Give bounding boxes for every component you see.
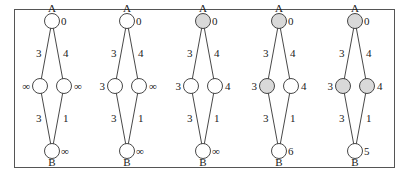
node-name-A: A — [275, 2, 283, 14]
node-name-A: A — [351, 2, 359, 14]
edge-weight-A-R: 4 — [366, 47, 372, 59]
graph-panel-step-2: 3431AB03∞∞ — [100, 2, 158, 168]
distance-label-L: ∞ — [22, 80, 30, 92]
edge-weight-R-B: 1 — [138, 112, 144, 124]
edge-A-L — [40, 21, 52, 86]
distance-label-A: 0 — [212, 15, 218, 27]
distance-label-L: 3 — [176, 80, 182, 92]
node-name-B: B — [123, 156, 130, 168]
edge-A-L — [343, 21, 355, 86]
edge-weight-L-B: 3 — [263, 112, 269, 124]
edge-L-B — [115, 86, 127, 151]
distance-label-L: 3 — [100, 80, 106, 92]
node-name-A: A — [199, 2, 207, 14]
distance-label-R: ∞ — [149, 80, 157, 92]
node-R — [57, 79, 72, 94]
edge-weight-A-R: 4 — [214, 47, 220, 59]
node-R — [360, 79, 375, 94]
edge-L-B — [40, 86, 52, 151]
node-L — [260, 79, 275, 94]
edge-A-L — [191, 21, 203, 86]
distance-label-B: ∞ — [61, 145, 69, 157]
node-R — [208, 79, 223, 94]
node-A — [120, 14, 135, 29]
node-A — [272, 14, 287, 29]
edge-weight-A-L: 3 — [36, 47, 42, 59]
edge-A-L — [115, 21, 127, 86]
distance-label-B: 6 — [288, 145, 294, 157]
edge-weight-L-B: 3 — [339, 112, 345, 124]
distance-label-B: ∞ — [136, 145, 144, 157]
edge-L-B — [267, 86, 279, 151]
node-L — [184, 79, 199, 94]
distance-label-B: 5 — [364, 145, 370, 157]
edge-weight-R-B: 1 — [214, 112, 220, 124]
graph-panel-step-4: 3431AB0346 — [252, 2, 308, 168]
edge-weight-A-L: 3 — [111, 47, 117, 59]
edge-L-B — [343, 86, 355, 151]
dijkstra-diagram: 3431AB0∞∞∞3431AB03∞∞3431AB034∞3431AB0346… — [0, 0, 406, 176]
edge-weight-L-B: 3 — [187, 112, 193, 124]
distance-label-A: 0 — [288, 15, 294, 27]
edge-weight-A-R: 4 — [63, 47, 69, 59]
node-R — [132, 79, 147, 94]
edge-weight-A-L: 3 — [187, 47, 193, 59]
edge-weight-R-B: 1 — [290, 112, 296, 124]
edge-weight-A-R: 4 — [290, 47, 296, 59]
graph-panel-step-5: 3431AB0345 — [328, 2, 384, 168]
node-name-B: B — [351, 156, 358, 168]
node-name-B: B — [275, 156, 282, 168]
node-R — [284, 79, 299, 94]
edge-weight-R-B: 1 — [63, 112, 69, 124]
edge-weight-R-B: 1 — [366, 112, 372, 124]
distance-label-L: 3 — [252, 80, 258, 92]
distance-label-A: 0 — [136, 15, 142, 27]
edge-weight-A-L: 3 — [339, 47, 345, 59]
distance-label-R: ∞ — [74, 80, 82, 92]
distance-label-L: 3 — [328, 80, 334, 92]
node-L — [108, 79, 123, 94]
graph-panel-step-1: 3431AB0∞∞∞ — [22, 2, 82, 168]
edge-weight-A-R: 4 — [138, 47, 144, 59]
distance-label-A: 0 — [61, 15, 67, 27]
node-name-B: B — [48, 156, 55, 168]
node-L — [336, 79, 351, 94]
node-name-A: A — [123, 2, 131, 14]
node-L — [33, 79, 48, 94]
node-name-A: A — [48, 2, 56, 14]
graph-panel-step-3: 3431AB034∞ — [176, 2, 232, 168]
edge-weight-L-B: 3 — [111, 112, 117, 124]
distance-label-A: 0 — [364, 15, 370, 27]
distance-label-R: 4 — [377, 80, 383, 92]
node-A — [45, 14, 60, 29]
distance-label-R: 4 — [225, 80, 231, 92]
edge-A-L — [267, 21, 279, 86]
edge-weight-A-L: 3 — [263, 47, 269, 59]
distance-label-R: 4 — [301, 80, 307, 92]
distance-label-B: ∞ — [212, 145, 220, 157]
node-A — [196, 14, 211, 29]
edge-weight-L-B: 3 — [36, 112, 42, 124]
node-name-B: B — [199, 156, 206, 168]
edge-L-B — [191, 86, 203, 151]
node-A — [348, 14, 363, 29]
